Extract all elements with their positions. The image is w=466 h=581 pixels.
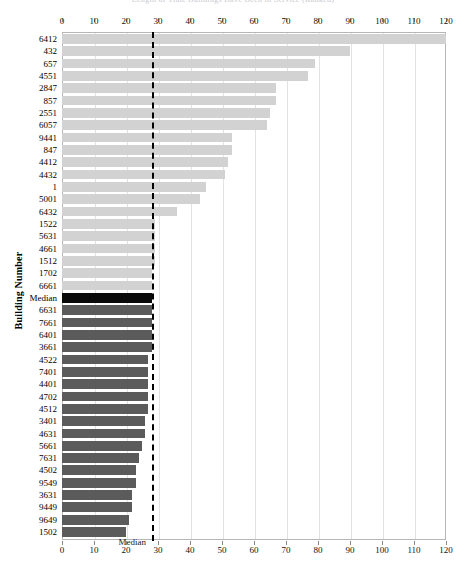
bar-row: [62, 304, 446, 316]
bar: [62, 342, 152, 352]
y-axis-label: 5001: [0, 193, 60, 205]
bar: [62, 429, 145, 439]
x-axis-tick-label: 30: [154, 545, 163, 555]
bar: [62, 133, 232, 143]
y-axis-label: 1702: [0, 267, 60, 279]
x-axis-top: 0102030405060708090100110120: [62, 18, 446, 32]
bar: [62, 157, 228, 167]
bar-row: [62, 267, 446, 279]
bar: [62, 244, 155, 254]
bar: [62, 367, 148, 377]
bar-row: [62, 107, 446, 119]
x-axis-tick-label: 50: [218, 545, 227, 555]
x-axis-tick-label: 80: [314, 545, 323, 555]
x-axis-tick-label: 80: [314, 16, 323, 26]
ranked-bar-chart: Length of Time Buildings Have Been in Se…: [0, 0, 466, 581]
y-axis-label: 1512: [0, 255, 60, 267]
y-axis-label: 6401: [0, 329, 60, 341]
bar: [62, 453, 139, 463]
chart-title: Length of Time Buildings Have Been in Se…: [0, 0, 466, 12]
bar: [62, 145, 232, 155]
bar: [62, 96, 276, 106]
y-axis-label: 9649: [0, 514, 60, 526]
x-axis-tick-label: 10: [90, 545, 99, 555]
x-axis-tick-label: 0: [60, 16, 65, 26]
y-axis-label: 4432: [0, 169, 60, 181]
y-axis-median-label: Median: [0, 292, 60, 304]
bar-row: [62, 280, 446, 292]
bar: [62, 182, 206, 192]
bar: [62, 207, 177, 217]
y-axis-label: 857: [0, 95, 60, 107]
x-axis-tick-label: 90: [346, 545, 355, 555]
bar-row: [62, 95, 446, 107]
x-axis-tick-label: 110: [407, 16, 420, 26]
bar: [62, 59, 315, 69]
bar-row: [62, 317, 446, 329]
y-axis-label: 4401: [0, 378, 60, 390]
x-axis-tick-label: 120: [439, 545, 453, 555]
y-axis-label: 6057: [0, 119, 60, 131]
bar: [62, 515, 129, 525]
y-axis-label: 1522: [0, 218, 60, 230]
y-axis-label: 3401: [0, 415, 60, 427]
y-axis-label: 5631: [0, 230, 60, 242]
bar-row: [62, 292, 446, 304]
bar: [62, 416, 145, 426]
bar: [62, 379, 148, 389]
bar-row: [62, 230, 446, 242]
bar-row: [62, 206, 446, 218]
y-axis-label: 1502: [0, 526, 60, 538]
median-reference-line: [152, 32, 154, 541]
bar-row: [62, 255, 446, 267]
bar-row: [62, 329, 446, 341]
x-axis-tick-label: 20: [122, 545, 131, 555]
bar-row: [62, 169, 446, 181]
y-axis-label: 1: [0, 181, 60, 193]
bar-row: [62, 243, 446, 255]
y-axis-label: 4502: [0, 464, 60, 476]
y-axis-label: 432: [0, 45, 60, 57]
bar-row: [62, 218, 446, 230]
y-axis-label: 6661: [0, 280, 60, 292]
bar: [62, 502, 132, 512]
y-axis-label: 657: [0, 58, 60, 70]
bar: [62, 318, 152, 328]
bar: [62, 46, 350, 56]
bar-row: [62, 378, 446, 390]
bar: [62, 281, 152, 291]
bar-row: [62, 403, 446, 415]
bar-row: [62, 428, 446, 440]
bar-row: [62, 33, 446, 45]
bar-row: [62, 58, 446, 70]
bar-row: [62, 464, 446, 476]
y-axis-label: 6432: [0, 206, 60, 218]
bar: [62, 268, 152, 278]
bar-row: [62, 514, 446, 526]
y-axis-label: 4512: [0, 403, 60, 415]
y-axis-label: 3631: [0, 489, 60, 501]
x-axis-bottom: 0102030405060708090100110120: [62, 541, 446, 557]
y-axis-label: 3661: [0, 341, 60, 353]
bar-row: [62, 354, 446, 366]
chart-title-text: Length of Time Buildings Have Been in Se…: [0, 0, 466, 4]
bar-row: [62, 181, 446, 193]
bar-row: [62, 391, 446, 403]
bar: [62, 490, 132, 500]
bar: [62, 194, 200, 204]
bar: [62, 34, 446, 44]
y-axis-label: 2551: [0, 107, 60, 119]
y-axis-label: 6631: [0, 304, 60, 316]
bar: [62, 108, 270, 118]
x-axis-tick-label: 120: [439, 16, 453, 26]
bar: [62, 170, 225, 180]
bar: [62, 330, 152, 340]
bar: [62, 256, 155, 266]
bar-row: [62, 156, 446, 168]
x-axis-tick-label: 60: [250, 545, 259, 555]
y-axis-label: 2847: [0, 82, 60, 94]
y-axis-label: 847: [0, 144, 60, 156]
bar: [62, 478, 136, 488]
y-axis-label: 4661: [0, 243, 60, 255]
x-axis-tick-label: 10: [90, 16, 99, 26]
